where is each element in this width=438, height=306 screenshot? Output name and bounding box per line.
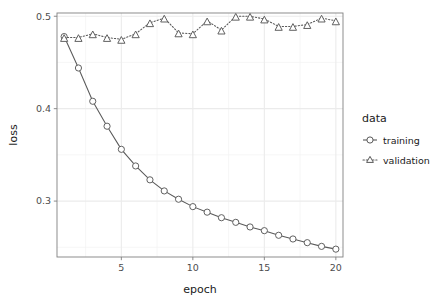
legend-label-training: training	[383, 135, 420, 146]
data-point-training	[190, 204, 196, 210]
chart-container: 51015200.30.40.5 epoch loss data trainin…	[0, 0, 438, 306]
data-point-training	[204, 209, 210, 215]
y-axis-title: loss	[7, 124, 20, 146]
data-point-training	[175, 196, 181, 202]
y-tick-label: 0.4	[36, 103, 51, 114]
loss-vs-epoch-chart: 51015200.30.40.5 epoch loss data trainin…	[0, 0, 438, 306]
data-point-training	[233, 219, 239, 225]
x-tick-label: 15	[258, 262, 270, 273]
data-point-training	[304, 240, 310, 246]
data-point-training	[261, 228, 267, 234]
data-point-training	[247, 224, 253, 230]
x-tick-label: 5	[118, 262, 124, 273]
x-axis-title: epoch	[183, 283, 217, 296]
data-point-training	[333, 246, 339, 252]
x-tick-label: 10	[187, 262, 199, 273]
data-point-training	[104, 123, 110, 129]
circle-icon	[367, 137, 373, 143]
y-tick-label: 0.5	[36, 11, 51, 22]
data-point-training	[318, 243, 324, 249]
data-point-training	[90, 98, 96, 104]
data-point-training	[133, 163, 139, 169]
data-point-training	[75, 65, 81, 71]
data-point-training	[276, 232, 282, 238]
data-point-training	[118, 146, 124, 152]
legend-title: data	[362, 112, 387, 125]
y-tick-label: 0.3	[36, 195, 51, 206]
data-point-training	[147, 177, 153, 183]
data-point-training	[290, 236, 296, 242]
legend-label-validation: validation	[383, 155, 430, 166]
data-point-training	[161, 188, 167, 194]
data-point-training	[218, 215, 224, 221]
x-tick-label: 20	[330, 262, 342, 273]
